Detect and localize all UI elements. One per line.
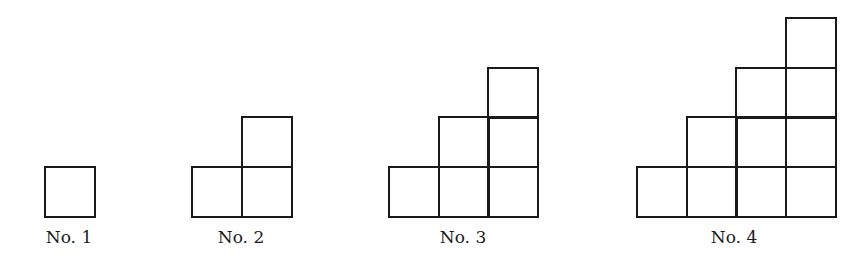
staircase-diagram: No. 1No. 2No. 3No. 4 [0, 0, 863, 263]
unit-square [785, 166, 837, 218]
unit-square [735, 116, 787, 168]
unit-square [785, 17, 837, 69]
unit-square [636, 166, 688, 218]
unit-square [438, 166, 490, 218]
unit-square [735, 67, 787, 119]
unit-square [686, 116, 738, 168]
unit-square [191, 166, 243, 218]
figure-label: No. 4 [711, 227, 757, 247]
figure-label: No. 3 [440, 227, 486, 247]
unit-square [785, 67, 837, 119]
figure-label: No. 1 [46, 227, 92, 247]
unit-square [388, 166, 440, 218]
unit-square [686, 166, 738, 218]
unit-square [487, 67, 539, 119]
unit-square [438, 116, 490, 168]
unit-square [241, 116, 293, 168]
figure-label: No. 2 [218, 227, 264, 247]
unit-square [735, 166, 787, 218]
unit-square [487, 166, 539, 218]
unit-square [785, 116, 837, 168]
unit-square [44, 166, 96, 218]
unit-square [241, 166, 293, 218]
unit-square [487, 116, 539, 168]
